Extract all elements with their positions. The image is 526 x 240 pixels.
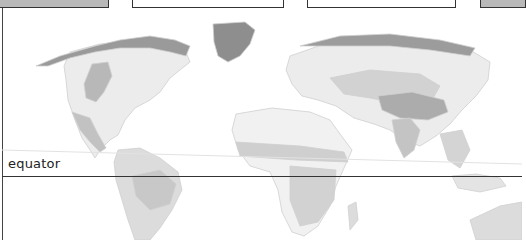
equator-line	[2, 176, 522, 177]
madagascar	[348, 202, 358, 230]
greenland	[213, 22, 255, 62]
equator-label: equator	[8, 156, 60, 171]
australia	[470, 202, 522, 240]
central-africa	[290, 166, 336, 226]
north-america	[64, 40, 190, 158]
